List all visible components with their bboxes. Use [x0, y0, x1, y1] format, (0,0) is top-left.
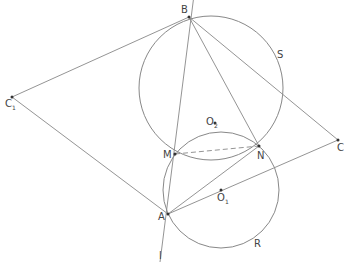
label-R: R [254, 239, 261, 249]
geometry-diagram: BCC1MNAO2O1SRl [0, 0, 346, 265]
label-O1: O1 [217, 193, 229, 205]
seg-A-C [168, 140, 338, 214]
diagram-canvas [0, 0, 346, 265]
point-M [174, 153, 177, 156]
label-S: S [277, 50, 283, 60]
point-B [188, 16, 191, 19]
label-M: M [163, 150, 172, 160]
label-A: A [158, 212, 165, 222]
point-N [258, 145, 261, 148]
label-B: B [181, 5, 188, 15]
point-A [167, 213, 170, 216]
seg-B-N [189, 17, 259, 146]
seg-M-N [175, 146, 259, 154]
label-O2: O2 [206, 117, 218, 129]
line-l [160, 0, 194, 262]
label-l: l [159, 251, 162, 261]
seg-B-C1 [12, 17, 189, 97]
label-C1: C1 [5, 99, 16, 111]
circle-S [139, 16, 283, 160]
label-C: C [337, 143, 344, 153]
label-N: N [257, 151, 264, 161]
